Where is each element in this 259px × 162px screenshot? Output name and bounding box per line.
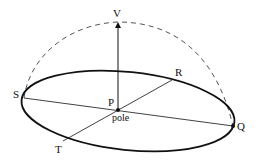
plane-ellipse <box>18 61 239 161</box>
label-T: T <box>55 143 62 155</box>
dashed-semicircle <box>24 22 233 126</box>
label-S: S <box>13 88 19 100</box>
point-Q <box>231 124 235 128</box>
label-pole: pole <box>112 112 130 123</box>
label-V: V <box>113 7 121 19</box>
diagram-canvas: V R S P pole Q T <box>0 0 259 162</box>
label-P: P <box>108 96 114 108</box>
label-Q: Q <box>237 120 245 132</box>
label-R: R <box>175 66 183 78</box>
